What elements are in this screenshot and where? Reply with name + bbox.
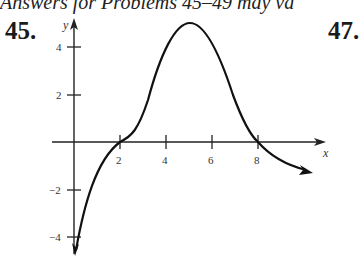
- y-axis-label: y: [62, 18, 69, 32]
- y-tick-2: 2: [56, 89, 62, 101]
- x-tick-6: 6: [208, 154, 214, 166]
- y-axis: y: [62, 18, 78, 254]
- curve-arrow-right-icon: [299, 165, 313, 175]
- curve-arrow-left-icon: [72, 243, 79, 256]
- x-axis: x: [52, 138, 329, 160]
- graph: x y 2 4 6 8 4 2 −2 −4: [0, 0, 360, 262]
- x-ticks: 2 4 6 8: [116, 135, 260, 166]
- y-tick-neg2: −2: [49, 184, 61, 196]
- x-axis-label: x: [322, 146, 329, 160]
- y-tick-neg4: −4: [49, 231, 61, 243]
- x-tick-2: 2: [116, 154, 122, 166]
- x-tick-8: 8: [254, 154, 260, 166]
- y-tick-4: 4: [56, 41, 62, 53]
- x-tick-4: 4: [162, 154, 168, 166]
- function-curve: [72, 23, 313, 256]
